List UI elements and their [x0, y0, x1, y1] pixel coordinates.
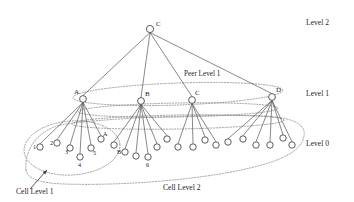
level-label-2: Level 0	[306, 139, 329, 148]
node-level1-L1B-circle[interactable]	[138, 98, 145, 105]
node-level0-b5	[154, 144, 160, 150]
tree-edge-level1-level0	[192, 103, 216, 141]
node-level0-a1-circle[interactable]	[37, 144, 43, 150]
cell-level-1-label: Cell Level 1	[16, 187, 54, 196]
node-level0-c1	[175, 144, 181, 150]
node-level0-d4-circle[interactable]	[267, 142, 273, 148]
node-level0-c2-circle[interactable]	[190, 144, 196, 150]
node-level0-a1: 1	[33, 143, 43, 150]
tree-edge-level1-level0	[192, 103, 205, 136]
node-level0-a2-circle[interactable]	[54, 140, 60, 146]
node-level0-b4: 6	[145, 154, 151, 168]
node-level0-b4-label: 6	[146, 161, 149, 168]
node-level0-c3-circle[interactable]	[202, 137, 208, 143]
node-level0-a5-label: 5	[93, 149, 96, 156]
tree-edge-level1-level0	[228, 100, 272, 138]
diagram-root: CABCD12345AB6 Level 2Level 1Level 0 Peer…	[0, 0, 354, 202]
level-label-0: Level 2	[306, 18, 329, 27]
node-level0-c3	[202, 137, 208, 143]
level-labels: Level 2Level 1Level 0	[306, 18, 329, 148]
node-level0-b5-circle[interactable]	[154, 144, 160, 150]
node-level0-d6	[289, 142, 295, 148]
node-level0-d2	[240, 136, 246, 142]
node-level0-b2: B	[117, 148, 128, 155]
region-labels: Peer Level 1Cell Level 1Cell Level 2	[16, 70, 221, 196]
tree-edge-level2-level1	[141, 33, 150, 98]
node-level0-a4: 4	[77, 154, 83, 168]
node-level0-b3	[133, 153, 139, 159]
node-level0-c1-circle[interactable]	[175, 144, 181, 150]
tree-edge-level1-level0	[141, 104, 157, 143]
node-level1-L1A: A	[74, 88, 86, 102]
tree-edge-level1-level0	[256, 100, 272, 141]
node-level0-a2: 2	[50, 139, 60, 146]
node-level0-a3-label: 3	[65, 148, 68, 155]
node-level1-L1C-label: C	[195, 89, 200, 97]
node-level2-root-circle[interactable]	[146, 25, 153, 32]
node-level0-c2	[190, 144, 196, 150]
node-level0-d4	[267, 142, 273, 148]
tree-edge-level2-level1	[83, 33, 150, 96]
node-level0-b6-circle[interactable]	[164, 136, 170, 142]
node-level0-a4-circle[interactable]	[77, 154, 83, 160]
tree-edge-level2-level1	[150, 33, 192, 97]
node-level0-a1-label: 1	[33, 143, 36, 150]
node-level0-b3-circle[interactable]	[133, 153, 139, 159]
node-level0-a6-label: A	[103, 130, 108, 137]
node-level2-root-label: C	[156, 20, 161, 28]
peer-level-1-label: Peer Level 1	[184, 70, 221, 78]
tree-edge-level1-level0	[114, 104, 141, 141]
tree-edge-level1-level0	[178, 103, 192, 143]
node-level2-root: C	[146, 20, 161, 33]
tree-edge-level1-level0	[192, 103, 193, 143]
node-level0-d1-circle[interactable]	[225, 139, 231, 145]
node-level0-b6	[164, 136, 170, 142]
tree-edge-level2-level1	[150, 33, 272, 94]
node-level0-c4-circle[interactable]	[213, 142, 219, 148]
node-level1-L1A-label: A	[74, 88, 79, 96]
node-level0-d5	[280, 135, 286, 141]
node-level0-c4	[213, 142, 219, 148]
node-level0-a6: A	[98, 130, 108, 142]
node-level1-L1D-label: D	[276, 86, 281, 94]
node-level0-d6-circle[interactable]	[289, 142, 295, 148]
tree-edge-level1-level0	[270, 100, 272, 141]
node-level0-a3: 3	[65, 145, 73, 155]
tree-edge-level1-level0	[243, 100, 272, 135]
node-level0-d5-circle[interactable]	[280, 135, 286, 141]
node-level1-L1D-circle[interactable]	[269, 94, 276, 101]
node-level0-d3-circle[interactable]	[253, 142, 259, 148]
node-level1-L1C: C	[189, 89, 200, 103]
node-level0-b4-circle[interactable]	[145, 154, 151, 160]
node-level0-d2-circle[interactable]	[240, 136, 246, 142]
level-label-1: Level 1	[306, 89, 329, 98]
cell-level-2-label: Cell Level 2	[163, 183, 201, 192]
node-level1-L1C-circle[interactable]	[189, 97, 196, 104]
hierarchy-diagram: CABCD12345AB6 Level 2Level 1Level 0 Peer…	[0, 0, 354, 202]
node-level1-L1B: B	[138, 90, 150, 104]
node-level0-a5: 5	[88, 145, 96, 156]
node-level0-b2-label: B	[117, 148, 121, 155]
node-level0-d3	[253, 142, 259, 148]
node-level1-L1A-circle[interactable]	[80, 96, 87, 103]
node-level0-a2-label: 2	[50, 139, 53, 146]
node-level0-b2-circle[interactable]	[122, 149, 128, 155]
tree-nodes: CABCD12345AB6	[33, 20, 295, 168]
node-level0-a4-label: 4	[78, 161, 81, 168]
node-level0-d1	[225, 139, 231, 145]
node-level1-L1B-label: B	[145, 90, 150, 98]
